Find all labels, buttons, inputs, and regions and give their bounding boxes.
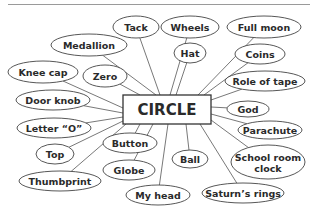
node-label: Knee cap bbox=[18, 67, 67, 78]
node-label: Button bbox=[112, 138, 149, 149]
association-node: Knee cap bbox=[8, 61, 78, 83]
association-node: School roomclock bbox=[231, 145, 305, 179]
association-node: Thumbprint bbox=[19, 171, 101, 191]
mind-map-svg: TackWheelsFull moonMedallionHatCoinsKnee… bbox=[0, 0, 316, 213]
connector-line bbox=[186, 124, 189, 150]
node-label: Top bbox=[46, 149, 65, 160]
association-node: Saturn’s rings bbox=[202, 183, 284, 203]
node-label: Coins bbox=[245, 49, 275, 60]
association-node: Wheels bbox=[161, 16, 219, 38]
node-label: Hat bbox=[181, 48, 200, 59]
node-label: Ball bbox=[180, 154, 200, 165]
connector-line bbox=[200, 124, 237, 183]
association-node: Medallion bbox=[51, 34, 127, 56]
association-node: Letter “O” bbox=[17, 118, 91, 138]
connector-line bbox=[140, 38, 160, 95]
node-label: Saturn’s rings bbox=[205, 188, 281, 199]
connector-line bbox=[86, 117, 123, 123]
association-node: Coins bbox=[235, 44, 285, 64]
association-node: Parachute bbox=[238, 121, 302, 139]
node-label: Role of tape bbox=[232, 76, 297, 87]
connector-line bbox=[120, 84, 140, 95]
node-label: Thumbprint bbox=[29, 176, 92, 187]
node-label: Wheels bbox=[170, 22, 209, 33]
node-label: My head bbox=[135, 190, 180, 201]
node-label: Medallion bbox=[63, 40, 115, 51]
association-node: My head bbox=[126, 185, 190, 205]
association-node: Button bbox=[103, 133, 157, 153]
node-label: Zero bbox=[93, 71, 118, 82]
central-concept-label: CIRCLE bbox=[138, 101, 197, 119]
node-label: Parachute bbox=[243, 125, 297, 136]
association-node: Hat bbox=[174, 43, 206, 63]
association-node: Role of tape bbox=[225, 71, 305, 91]
node-label: Tack bbox=[124, 22, 148, 33]
circle-mind-map: TackWheelsFull moonMedallionHatCoinsKnee… bbox=[0, 0, 316, 213]
association-node: Ball bbox=[172, 150, 208, 168]
connector-line bbox=[211, 107, 227, 108]
node-label: Letter “O” bbox=[26, 123, 83, 134]
connector-line bbox=[159, 124, 168, 185]
central-concept: CIRCLE bbox=[123, 95, 211, 124]
association-node: Globe bbox=[103, 160, 155, 180]
node-label: God bbox=[237, 104, 258, 115]
connector-line bbox=[135, 124, 140, 133]
association-node: Zero bbox=[83, 65, 127, 87]
connector-line bbox=[211, 89, 242, 100]
association-node: Door knob bbox=[16, 90, 90, 110]
connector-line bbox=[176, 63, 187, 95]
connector-line bbox=[83, 106, 123, 113]
association-node: God bbox=[227, 101, 269, 117]
node-label: Door knob bbox=[25, 95, 81, 106]
association-node: Full moon bbox=[227, 16, 301, 38]
node-label: Globe bbox=[114, 165, 145, 176]
association-node: Top bbox=[36, 144, 74, 164]
association-node: Tack bbox=[113, 16, 159, 38]
node-label: Full moon bbox=[238, 22, 291, 33]
